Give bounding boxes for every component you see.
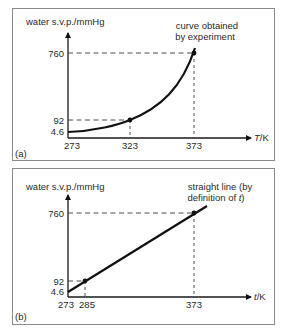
panel-a-y-axis-label: water s.v.p./mmHg (25, 16, 104, 27)
panel-a-xtick-373: 373 (186, 140, 202, 151)
panel-a-point-373 (192, 51, 197, 56)
panel-a-annotation-line2: by experiment (175, 31, 235, 42)
panel-b-point-285 (83, 279, 88, 284)
panel-b-annotation-line2-pre: definition of (187, 192, 238, 203)
panel-a-ytick-4-6: 4.6 (51, 126, 64, 137)
panel-b-ytick-760: 760 (48, 208, 64, 219)
panel-a-x-unit: /K (260, 132, 270, 143)
panel-b-point-373 (192, 211, 197, 216)
panel-b-label: (b) (15, 311, 27, 322)
panel-b-x-axis-label: t/K (254, 291, 266, 302)
panel-b-annotation-line2: definition of t) (187, 192, 244, 203)
panel-a-ytick-92: 92 (53, 115, 64, 126)
panel-b-ytick-4-6: 4.6 (51, 286, 64, 297)
panel-a-xtick-273: 273 (64, 140, 80, 151)
panel-a-xtick-323: 323 (122, 140, 138, 151)
panel-b: water s.v.p./mmHg 760 92 4.6 273 285 373… (13, 169, 275, 325)
panel-b-xtick-273: 273 (58, 299, 74, 310)
panel-a-annotation-line1: curve obtained (176, 20, 238, 31)
panel-b-annotation-line1: straight line (by (188, 181, 253, 192)
panel-a-point-323 (128, 118, 133, 123)
panel-b-y-axis-label: water s.v.p./mmHg (25, 181, 104, 192)
panel-a-x-axis-label: T/K (254, 132, 269, 143)
panel-b-straight-line (68, 206, 207, 292)
panel-b-ytick-92: 92 (53, 276, 64, 287)
panel-b-xtick-285: 285 (79, 299, 95, 310)
svp-figure: water s.v.p./mmHg 760 92 4.6 273 323 373… (0, 0, 284, 334)
panel-b-xtick-373: 373 (186, 299, 202, 310)
panel-b-x-unit: /K (257, 291, 267, 302)
panel-b-annotation-line2-post: ) (241, 192, 244, 203)
panel-a: water s.v.p./mmHg 760 92 4.6 273 323 373… (13, 9, 275, 161)
panel-a-label: (a) (15, 148, 27, 159)
panel-a-ytick-760: 760 (48, 48, 64, 59)
